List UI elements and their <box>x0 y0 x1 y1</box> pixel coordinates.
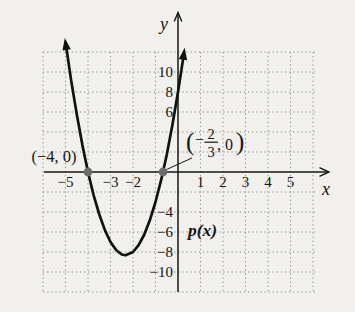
curve-arrowhead-icon <box>62 38 70 50</box>
x-tick-label: 3 <box>242 174 250 190</box>
y-tick-label: 8 <box>166 84 174 100</box>
x-tick-label: 4 <box>264 174 272 190</box>
y-tick-label: 10 <box>158 64 173 80</box>
fraction-numerator: 2 <box>207 126 214 142</box>
leader-line <box>167 158 193 170</box>
close-paren: ) <box>236 128 244 156</box>
x-axis-label: x <box>321 179 330 199</box>
comma-zero: , 0 <box>217 136 233 153</box>
open-paren: ( <box>186 128 194 156</box>
x-tick-label: 2 <box>219 174 227 190</box>
y-tick-label: −6 <box>157 224 173 240</box>
left-intercept-label: (−4, 0) <box>31 147 76 166</box>
x-tick-label: −2 <box>125 174 141 190</box>
fraction-denominator: 3 <box>207 144 214 160</box>
curve-arrowhead-icon <box>179 48 187 60</box>
intercept-dot <box>84 168 93 177</box>
intercept-dot <box>159 168 168 177</box>
graph-canvas: y x −5−3−2123451086−4−6−8−10 (−4, 0) ( −… <box>0 0 355 312</box>
x-tick-label: 5 <box>287 174 295 190</box>
minus-sign: − <box>195 131 204 148</box>
x-tick-label: 1 <box>197 174 205 190</box>
x-tick-label: −3 <box>103 174 119 190</box>
function-label: p(x) <box>186 220 217 240</box>
y-tick-label: −4 <box>157 204 173 220</box>
y-tick-label: −10 <box>150 264 173 280</box>
x-tick-label: −5 <box>58 174 74 190</box>
y-axis-label: y <box>158 14 168 34</box>
y-tick-label: −8 <box>157 244 173 260</box>
